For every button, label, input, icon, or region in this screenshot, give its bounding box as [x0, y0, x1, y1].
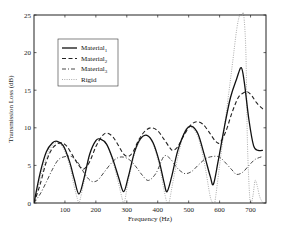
- x-tick-label: 100: [60, 206, 71, 214]
- x-tick-label: 300: [122, 206, 133, 214]
- y-tick-label: 25: [24, 12, 32, 20]
- x-axis-label: Frequency (Hz): [128, 215, 173, 223]
- legend-label: Material3: [81, 65, 108, 74]
- y-tick-label: 10: [24, 124, 32, 132]
- x-tick-label: 700: [245, 206, 256, 214]
- x-tick-label: 200: [91, 206, 102, 214]
- series-material1-line: [34, 68, 263, 203]
- y-tick-label: 15: [24, 87, 32, 95]
- legend: Material1Material2Material3Rigid: [58, 39, 118, 86]
- y-axis-label: Transmission Loss (dB): [7, 75, 15, 143]
- legend-label: Material2: [81, 55, 108, 64]
- y-tick-label: 0: [28, 200, 32, 208]
- y-tick-label: 20: [24, 49, 32, 57]
- chart-figure: 1002003004005006007000510152025 Frequenc…: [0, 0, 282, 230]
- x-tick-label: 500: [183, 206, 194, 214]
- series-material3-line: [34, 155, 263, 203]
- legend-label: Material1: [81, 44, 108, 53]
- line-chart: 1002003004005006007000510152025 Frequenc…: [0, 0, 282, 230]
- x-tick-label: 400: [152, 206, 163, 214]
- legend-label: Rigid: [81, 76, 97, 84]
- y-tick-label: 5: [28, 162, 32, 170]
- x-tick-label: 600: [214, 206, 225, 214]
